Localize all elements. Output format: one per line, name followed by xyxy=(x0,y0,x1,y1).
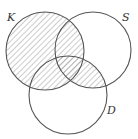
set-s-label: S xyxy=(122,11,130,24)
venn-diagram: K S D xyxy=(0,0,138,139)
set-k-label: K xyxy=(6,11,16,24)
set-d-label: D xyxy=(106,104,116,117)
